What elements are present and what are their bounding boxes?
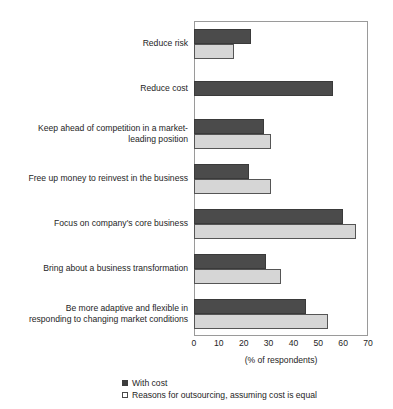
bar-with-cost — [194, 81, 333, 96]
category-label-line: Be more adaptive and flexible in — [2, 303, 188, 314]
bar-chart-figure: Reduce riskReduce costKeep ahead of comp… — [0, 0, 393, 409]
category-label: Reduce cost — [2, 83, 188, 94]
x-tick-label: 10 — [214, 338, 224, 348]
x-tick-label: 20 — [239, 338, 249, 348]
bar-cost-equal — [194, 269, 281, 284]
category-label-line: Reduce risk — [2, 38, 188, 49]
bar-with-cost — [194, 209, 343, 224]
chart-legend: With costReasons for outsourcing, assumi… — [122, 377, 317, 401]
bar-cost-equal — [194, 44, 234, 59]
x-tick-label: 0 — [192, 338, 197, 348]
category-label: Bring about a business transformation — [2, 263, 188, 274]
x-tick-label: 30 — [264, 338, 274, 348]
category-label-line: Focus on company's core business — [2, 218, 188, 229]
legend-item: With cost — [122, 377, 317, 389]
category-label-line: Free up money to reinvest in the busines… — [2, 173, 188, 184]
category-label: Keep ahead of competition in a market-le… — [2, 123, 188, 145]
bar-with-cost — [194, 29, 251, 44]
category-label-line: Bring about a business transformation — [2, 263, 188, 274]
legend-label: Reasons for outsourcing, assuming cost i… — [132, 389, 317, 401]
category-label: Focus on company's core business — [2, 218, 188, 229]
bar-with-cost — [194, 119, 264, 134]
x-tick-label: 70 — [363, 338, 373, 348]
category-label: Be more adaptive and flexible inrespondi… — [2, 303, 188, 325]
category-label-line: responding to changing market conditions — [2, 314, 188, 325]
bar-cost-equal — [194, 134, 271, 149]
category-label-line: Reduce cost — [2, 83, 188, 94]
bar-with-cost — [194, 299, 306, 314]
legend-swatch-light — [122, 392, 128, 398]
legend-item: Reasons for outsourcing, assuming cost i… — [122, 389, 317, 401]
category-label: Reduce risk — [2, 38, 188, 49]
x-axis-tick-labels: 010203040506070 — [194, 338, 368, 352]
category-label-line: leading position — [2, 134, 188, 145]
bar-cost-equal — [194, 314, 328, 329]
x-axis-title: (% of respondents) — [194, 355, 368, 365]
legend-swatch-dark — [122, 380, 128, 386]
category-label-line: Keep ahead of competition in a market- — [2, 123, 188, 134]
bar-cost-equal — [194, 224, 356, 239]
x-tick-label: 40 — [289, 338, 299, 348]
bar-with-cost — [194, 164, 249, 179]
bar-cost-equal — [194, 179, 271, 194]
x-tick-label: 60 — [338, 338, 348, 348]
legend-label: With cost — [132, 377, 167, 389]
category-label: Free up money to reinvest in the busines… — [2, 173, 188, 184]
bar-with-cost — [194, 254, 266, 269]
plot-area — [194, 21, 368, 336]
x-tick-label: 50 — [314, 338, 324, 348]
